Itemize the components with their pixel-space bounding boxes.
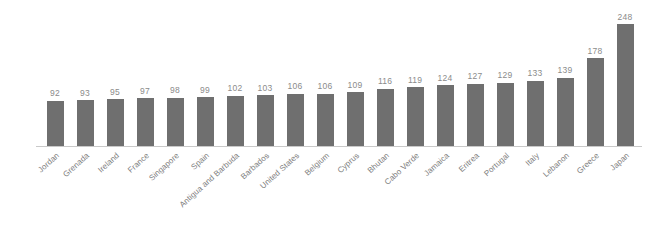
bar-group: 124 — [430, 8, 460, 146]
bar-value-label: 248 — [618, 13, 633, 22]
bar — [407, 87, 424, 146]
bar — [587, 58, 604, 146]
category-label-slot: France — [130, 149, 160, 239]
bar — [137, 98, 154, 146]
bar-value-label: 95 — [110, 88, 120, 97]
bar — [107, 99, 124, 146]
bar-group: 97 — [130, 8, 160, 146]
bar-chart: 9293959798991021031061061091161191241271… — [0, 0, 660, 241]
bar-value-label: 124 — [438, 74, 453, 83]
category-label-slot: Jamaica — [430, 149, 460, 239]
category-label-slot: Greece — [580, 149, 610, 239]
bar-value-label: 116 — [378, 77, 392, 86]
bar — [287, 94, 304, 146]
bar — [227, 96, 244, 146]
bar — [527, 81, 544, 146]
category-label-slot: Lebanon — [550, 149, 580, 239]
bar-group: 106 — [280, 8, 310, 146]
category-label-slot: Jordan — [40, 149, 70, 239]
bar — [557, 78, 574, 146]
bar-group: 106 — [310, 8, 340, 146]
bar-group: 129 — [490, 8, 520, 146]
category-label-slot: Italy — [520, 149, 550, 239]
category-label: Ireland — [96, 151, 121, 175]
bar — [497, 83, 514, 146]
bar — [167, 98, 184, 146]
bar-group: 133 — [520, 8, 550, 146]
bar-group: 116 — [370, 8, 400, 146]
bar-value-label: 98 — [170, 86, 180, 95]
category-label-slot: Ireland — [100, 149, 130, 239]
category-label-slot: Japan — [610, 149, 640, 239]
category-label-slot: Eritrea — [460, 149, 490, 239]
bar-value-label: 139 — [558, 66, 573, 75]
category-label-slot: Grenada — [70, 149, 100, 239]
bar-value-label: 133 — [528, 69, 543, 78]
bar-group: 102 — [220, 8, 250, 146]
bar-group: 119 — [400, 8, 430, 146]
bar-group: 178 — [580, 8, 610, 146]
category-label: Eritrea — [457, 151, 481, 174]
bar — [467, 84, 484, 146]
bar-group: 248 — [610, 8, 640, 146]
bar-value-label: 119 — [408, 76, 422, 85]
category-label: Japan — [608, 151, 631, 173]
bar-value-label: 129 — [498, 71, 513, 80]
bar-group: 103 — [250, 8, 280, 146]
bar — [437, 85, 454, 146]
category-label-slot: Cabo Verde — [400, 149, 430, 239]
bar-group: 93 — [70, 8, 100, 146]
bar — [377, 89, 394, 146]
bar-value-label: 102 — [228, 84, 243, 93]
bar-group: 98 — [160, 8, 190, 146]
category-label-slot: Belgium — [310, 149, 340, 239]
x-axis-baseline — [36, 146, 642, 147]
bar — [47, 101, 64, 146]
bar — [197, 97, 214, 146]
category-label: Cyprus — [336, 151, 361, 175]
bar-value-label: 109 — [348, 81, 363, 90]
bar-group: 95 — [100, 8, 130, 146]
bar — [617, 24, 634, 146]
bar — [347, 92, 364, 146]
category-label: Spain — [189, 151, 211, 172]
category-label: France — [126, 151, 151, 175]
bar-value-label: 92 — [50, 89, 60, 98]
bar-group: 99 — [190, 8, 220, 146]
bar-group: 139 — [550, 8, 580, 146]
bar-group: 109 — [340, 8, 370, 146]
category-label-slot: United States — [280, 149, 310, 239]
bar-value-label: 178 — [588, 47, 603, 56]
category-labels-layer: JordanGrenadaIrelandFranceSingaporeSpain… — [40, 149, 640, 239]
category-label-slot: Portugal — [490, 149, 520, 239]
bar-value-label: 103 — [258, 84, 273, 93]
bar-value-label: 97 — [140, 87, 150, 96]
category-label-slot: Bhutan — [370, 149, 400, 239]
category-label-slot: Barbados — [250, 149, 280, 239]
bar-value-label: 127 — [468, 72, 483, 81]
category-label-slot: Antigua and Barbuda — [220, 149, 250, 239]
bar-value-label: 99 — [200, 86, 210, 95]
category-label: Bhutan — [366, 151, 391, 175]
bar-group: 127 — [460, 8, 490, 146]
category-label-slot: Cyprus — [340, 149, 370, 239]
bar-value-label: 106 — [288, 82, 303, 91]
category-label: Jordan — [36, 151, 61, 174]
bar — [257, 95, 274, 146]
bar-value-label: 106 — [318, 82, 333, 91]
bar — [77, 100, 94, 146]
plot-area: 9293959798991021031061061091161191241271… — [40, 8, 640, 146]
bar-value-label: 93 — [80, 89, 90, 98]
bar-group: 92 — [40, 8, 70, 146]
category-label: Italy — [524, 151, 541, 168]
bar — [317, 94, 334, 146]
bars-layer: 9293959798991021031061061091161191241271… — [40, 8, 640, 146]
